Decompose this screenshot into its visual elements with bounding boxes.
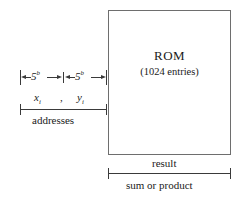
result-label: result (152, 157, 176, 169)
result-bracket-rule (108, 173, 231, 174)
input-variable-y-sub: i (82, 98, 84, 105)
input-variable-x: xi (34, 91, 41, 103)
input-width-middle-tick (63, 72, 64, 83)
arrow-right-head-seg2 (101, 75, 106, 79)
input-variable-x-sub: i (39, 98, 41, 105)
sum-or-product-label: sum or product (126, 179, 193, 191)
input-width-right-tick (106, 70, 107, 85)
input-variable-separator: , (60, 91, 63, 103)
arrow-shaft-seg2-b (91, 77, 101, 78)
input-variable-y: yi (77, 91, 84, 103)
rom-subtitle: (1024 entries) (108, 65, 231, 78)
input-width-label-left: 5b (31, 70, 40, 82)
input-width-right-exp: b (81, 69, 84, 76)
arrow-right-head-seg1 (57, 75, 62, 79)
input-width-left-exp: b (37, 69, 40, 76)
input-width-label-right: 5b (75, 70, 84, 82)
rom-title: ROM (108, 48, 231, 64)
diagram-canvas: ROM (1024 entries) 5b 5b xi , yi address… (0, 0, 244, 200)
rom-box (108, 10, 231, 155)
result-bracket-right-tick (230, 168, 231, 179)
rom-label-group: ROM (1024 entries) (108, 48, 231, 78)
arrow-shaft-seg1-b (47, 77, 57, 78)
addresses-bracket-rule (20, 109, 107, 110)
addresses-bracket-right-tick (106, 104, 107, 115)
addresses-label: addresses (32, 114, 74, 126)
